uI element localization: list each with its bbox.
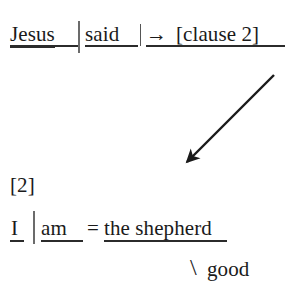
clause-diagram: Jesus said → [clause 2] [2] I am = the s… xyxy=(0,0,296,295)
clause1-arrow-glyph: → xyxy=(146,22,167,46)
clause2-predicate-rule xyxy=(41,240,83,242)
clause2-modifier: good xyxy=(207,257,249,281)
clause2-subject: I xyxy=(11,216,18,240)
clause1-predicate-rule xyxy=(85,45,138,47)
clause2-label: [2] xyxy=(10,173,35,197)
clause1-complement-rule xyxy=(146,45,285,47)
clause2-predicate: am xyxy=(41,216,67,240)
clause2-complement: the shepherd xyxy=(104,216,212,240)
clause2-equals-sign: = xyxy=(87,216,99,240)
clause2-primary-separator-bar xyxy=(33,211,35,244)
clause1-primary-separator-bar xyxy=(78,21,80,53)
clause2-subject-rule xyxy=(10,240,24,242)
clause2-modifier-slash: \ xyxy=(190,255,197,279)
clause1-subject-rule xyxy=(10,45,78,47)
clause1-complement: [clause 2] xyxy=(176,22,259,46)
clause1-predicate: said xyxy=(85,22,119,46)
clause2-complement-rule xyxy=(104,240,227,242)
clause1-secondary-separator-bar xyxy=(140,24,141,46)
